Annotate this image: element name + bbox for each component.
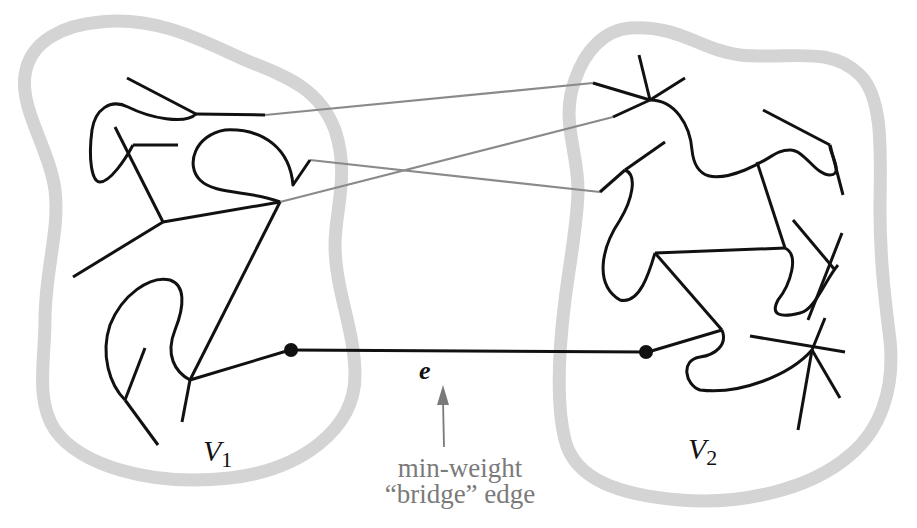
annotation-arrow-icon xyxy=(437,385,449,447)
bridge-edge-label: e xyxy=(419,358,431,384)
partition-label-v2-subscript: 2 xyxy=(706,445,717,470)
partition-label-v2: V2 xyxy=(688,434,717,469)
bridge-edge-caption: min-weight “bridge” edge xyxy=(360,455,560,507)
bridge-edge-e xyxy=(284,343,653,359)
partition-label-v1-subscript: 1 xyxy=(221,447,232,472)
partition-v1-boundary xyxy=(24,21,355,480)
bridge-endpoint-v1 xyxy=(284,343,298,357)
tree-v2 xyxy=(593,55,845,430)
bridge-endpoint-v2 xyxy=(639,345,653,359)
partition-label-v1: V1 xyxy=(203,436,232,471)
partition-v2-boundary xyxy=(559,28,891,501)
tree-v1 xyxy=(73,78,310,445)
partition-label-v2-name: V xyxy=(688,432,706,465)
graph-cut-diagram xyxy=(0,0,917,528)
partition-label-v1-name: V xyxy=(203,434,221,467)
caption-line-2: “bridge” edge xyxy=(360,481,560,507)
caption-line-1: min-weight xyxy=(360,455,560,481)
